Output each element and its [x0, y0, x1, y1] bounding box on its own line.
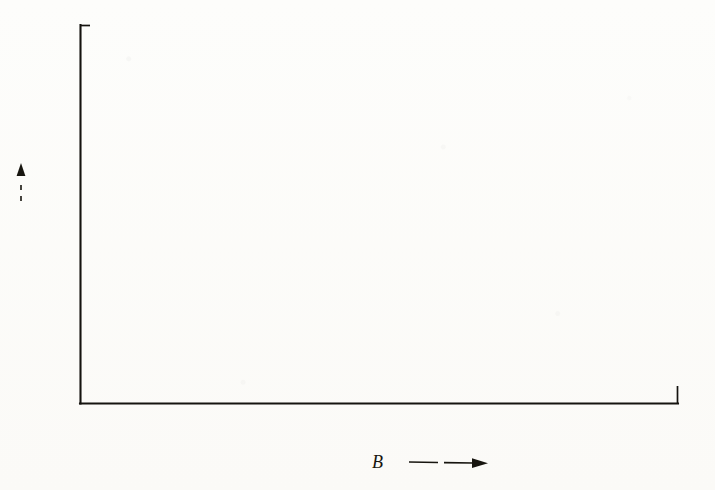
- chart-figure: B: [0, 0, 715, 490]
- x-axis-arrow-icon: [409, 458, 488, 468]
- axis-frame: [80, 25, 678, 404]
- y-axis-title-group: [17, 163, 26, 201]
- chart-svg: B: [0, 0, 715, 490]
- x-axis-title-group: B: [372, 452, 488, 472]
- x-axis-title-symbol: B: [372, 452, 383, 472]
- y-axis-arrow-icon: [17, 163, 26, 201]
